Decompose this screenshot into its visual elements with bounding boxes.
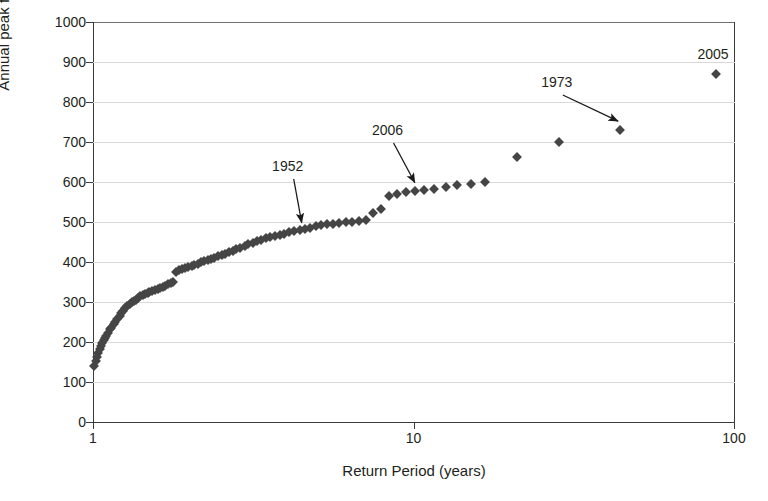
y-axis-tick (86, 302, 93, 303)
y-axis-tick (86, 182, 93, 183)
x-axis-tick-label: 10 (406, 430, 422, 446)
y-axis-tick-label: 200 (63, 334, 86, 350)
y-axis-tick (86, 422, 93, 423)
y-axis-tick (86, 262, 93, 263)
x-axis-tick-label: 1 (89, 430, 97, 446)
y-axis-tick (86, 222, 93, 223)
y-axis-tick (86, 342, 93, 343)
y-axis-tick-label: 700 (63, 134, 86, 150)
y-axis-tick (86, 22, 93, 23)
y-axis-tick-label: 900 (63, 54, 86, 70)
y-axis-tick (86, 102, 93, 103)
chart-figure: Annual peak flow (m3s−1) 010020030040050… (0, 0, 768, 501)
y-axis-tick (86, 62, 93, 63)
y-axis-tick-label: 600 (63, 174, 86, 190)
y-axis-tick-label: 400 (63, 254, 86, 270)
y-axis-tick (86, 142, 93, 143)
x-axis-tick-labels: 110100 (93, 0, 735, 460)
y-axis-tick-label: 800 (63, 94, 86, 110)
x-axis-tick-label: 100 (722, 430, 745, 446)
x-axis-title: Return Period (years) (93, 462, 735, 479)
y-axis-tick-labels: 01002003004005006007008009001000 (0, 22, 86, 423)
y-axis-tick-label: 0 (78, 414, 86, 430)
y-axis-tick-label: 1000 (55, 14, 86, 30)
y-axis-tick-label: 100 (63, 374, 86, 390)
y-axis-tick (86, 382, 93, 383)
y-axis-tick-label: 500 (63, 214, 86, 230)
y-axis-tick-label: 300 (63, 294, 86, 310)
